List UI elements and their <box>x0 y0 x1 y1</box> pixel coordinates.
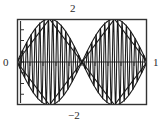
carrier-trace <box>17 19 147 105</box>
plot-canvas <box>0 0 166 128</box>
carrier-waveform <box>17 19 147 105</box>
plot-figure: 2 −2 0 1 <box>0 0 166 128</box>
